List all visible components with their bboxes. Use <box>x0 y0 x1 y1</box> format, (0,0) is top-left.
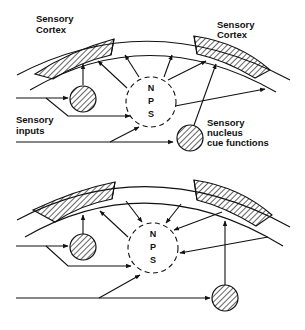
label-sensory-inputs-2: inputs <box>16 125 45 136</box>
sensory-relay-nucleus-circle-bottom <box>70 234 96 260</box>
label-sensory-cortex-left-2: Cortex <box>36 24 67 35</box>
nps-arrow-up-1 <box>125 55 139 77</box>
cortex-to-nps-arrow-4 <box>180 237 268 253</box>
nps-arrow-right <box>175 89 265 106</box>
input-branch-to-nps <box>110 127 139 142</box>
label-sensory-cortex-left-1: Sensory <box>36 13 74 24</box>
nps-arrow-up-2 <box>164 55 172 77</box>
nps-arrow-up-left-bottom <box>100 211 128 237</box>
input-branch-to-nps-bottom <box>99 275 140 298</box>
diagram-canvas: Sensory Cortex Sensory Cortex Sensory in… <box>0 0 305 330</box>
sensory-nucleus-cue-circle <box>177 125 203 151</box>
label-sensory-nucleus-3: cue functions <box>207 137 269 148</box>
nps-arrow-up-left <box>98 61 127 88</box>
top-panel: Sensory Cortex Sensory Cortex Sensory in… <box>16 13 290 151</box>
label-sensory-inputs-1: Sensory <box>16 114 54 125</box>
cortex-to-nps-arrow-1 <box>126 201 142 222</box>
cortex-to-nps-arrow-2 <box>166 204 181 223</box>
sensory-relay-nucleus-circle <box>70 86 96 112</box>
nps-letter-p-bottom: P <box>150 242 156 252</box>
label-sensory-cortex-right-2: Cortex <box>217 29 248 40</box>
nps-arrow-up-right <box>168 61 206 80</box>
sensory-nucleus-cue-circle-bottom <box>212 285 238 311</box>
nps-letter-n-bottom: N <box>150 229 157 239</box>
nps-letter-p: P <box>148 96 154 106</box>
right-sensory-cortex-block-bottom <box>194 180 272 226</box>
nps-letter-s: S <box>148 109 154 119</box>
left-sensory-cortex-block-bottom <box>33 182 115 222</box>
nps-letter-s-bottom: S <box>150 255 156 265</box>
bottom-panel: N P S <box>16 180 290 311</box>
cortex-to-nps-arrow-3 <box>174 212 222 230</box>
nps-letter-n: N <box>148 83 155 93</box>
